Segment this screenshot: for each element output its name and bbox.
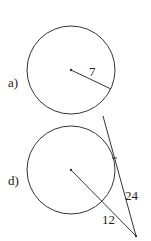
figure-d: 24 12 d) xyxy=(8,116,139,237)
geometry-diagram: 7 a) 24 12 d) xyxy=(0,0,151,241)
radius-label-a: 7 xyxy=(89,64,96,79)
figure-a: 7 a) xyxy=(8,26,115,114)
external-point xyxy=(135,235,137,237)
tangent-label: 24 xyxy=(125,188,139,203)
figure-label-a: a) xyxy=(8,75,18,90)
figure-label-d: d) xyxy=(8,173,19,188)
segment-label: 12 xyxy=(102,212,115,227)
